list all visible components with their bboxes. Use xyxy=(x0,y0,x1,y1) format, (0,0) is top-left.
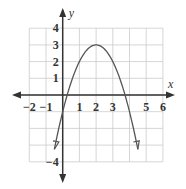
x-tick-label: −1 xyxy=(40,100,53,114)
y-tick-label: 1 xyxy=(53,71,59,85)
x-tick-label: 5 xyxy=(143,100,149,114)
x-axis-label: x xyxy=(167,77,174,91)
y-tick-label: 3 xyxy=(53,38,59,52)
x-tick-label: 6 xyxy=(160,100,166,114)
y-axis-label: y xyxy=(68,6,75,20)
y-tick-label: 4 xyxy=(53,21,59,35)
parabola-chart: −2−1123564321−4 x y xyxy=(0,0,186,189)
axes xyxy=(12,8,175,183)
y-axis-bottom-arrow xyxy=(59,174,66,183)
x-axis-right-arrow xyxy=(166,92,175,99)
x-tick-label: 1 xyxy=(76,100,82,114)
x-tick-label: 3 xyxy=(110,100,116,114)
x-tick-label: −2 xyxy=(23,100,36,114)
x-tick-label: 2 xyxy=(93,100,99,114)
y-axis-top-arrow xyxy=(59,8,66,17)
y-tick-label: −4 xyxy=(46,155,59,169)
y-tick-label: 2 xyxy=(53,55,59,69)
x-axis-left-arrow xyxy=(12,92,21,99)
